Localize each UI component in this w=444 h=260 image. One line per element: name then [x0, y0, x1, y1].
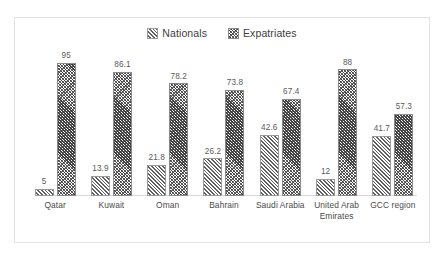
bar-slot-nationals: 41.7 [372, 52, 391, 196]
bar-expatriates [113, 72, 132, 196]
bar-slot-nationals: 42.6 [260, 52, 279, 196]
legend-entry-nationals: Nationals [147, 27, 207, 39]
bar-value-label: 41.7 [374, 125, 390, 133]
bar-value-label: 26.2 [205, 148, 221, 156]
bar-value-label: 95 [61, 52, 70, 60]
plot-area: 5 95 13.9 86.1 21.8 78. [27, 52, 421, 196]
bar-slot-expatriates: 67.4 [282, 52, 301, 196]
bar-value-label: 21.8 [149, 154, 165, 162]
bar-value-label: 73.8 [227, 79, 243, 87]
bar-value-label: 5 [42, 178, 47, 186]
bar-value-label: 88 [343, 59, 352, 67]
x-tick-label: GCC region [365, 200, 421, 211]
bar-group: 5 95 [27, 52, 83, 196]
bar-value-label: 13.9 [92, 165, 108, 173]
bar-group: 21.8 78.2 [140, 52, 196, 196]
legend-label-nationals: Nationals [162, 27, 207, 39]
bar-slot-nationals: 5 [35, 52, 54, 196]
legend-label-expatriates: Expatriates [243, 27, 297, 39]
bar-value-label: 57.3 [396, 103, 412, 111]
bar-slot-nationals: 26.2 [203, 52, 222, 196]
bar-value-label: 86.1 [114, 61, 130, 69]
bar-group: 12 88 [308, 52, 364, 196]
x-tick-label: Saudi Arabia [252, 200, 308, 211]
x-tick-label: Bahrain [196, 200, 252, 211]
bar-expatriates [57, 63, 76, 196]
bar-slot-expatriates: 73.8 [225, 52, 244, 196]
bar-slot-nationals: 21.8 [147, 52, 166, 196]
bar-expatriates [225, 90, 244, 196]
bar-expatriates [394, 114, 413, 197]
bar-nationals [203, 158, 222, 196]
x-tick-label: Oman [140, 200, 196, 211]
bar-group: 41.7 57.3 [365, 52, 421, 196]
bar-slot-expatriates: 78.2 [169, 52, 188, 196]
bar-value-label: 67.4 [283, 88, 299, 96]
x-tick-label: Kuwait [83, 200, 139, 211]
bar-expatriates [169, 83, 188, 196]
bar-slot-expatriates: 86.1 [113, 52, 132, 196]
bar-slot-expatriates: 88 [338, 52, 357, 196]
bar-value-label: 12 [321, 168, 330, 176]
bar-slot-nationals: 12 [316, 52, 335, 196]
bar-nationals [372, 136, 391, 196]
bar-group: 26.2 73.8 [196, 52, 252, 196]
bar-nationals [91, 176, 110, 196]
legend-swatch-expatriates-icon [228, 28, 239, 39]
x-tick-label: United Arab Emirates [308, 200, 364, 221]
bar-slot-expatriates: 95 [57, 52, 76, 196]
x-axis-labels: Qatar Kuwait Oman Bahrain Saudi Arabia U… [27, 196, 421, 236]
legend-swatch-nationals-icon [147, 28, 158, 39]
bar-nationals [35, 189, 54, 196]
legend-entry-expatriates: Expatriates [228, 27, 297, 39]
bar-value-label: 42.6 [261, 124, 277, 132]
bar-slot-nationals: 13.9 [91, 52, 110, 196]
bar-nationals [316, 179, 335, 196]
chart-legend: Nationals Expatriates [15, 27, 429, 39]
bar-expatriates [282, 99, 301, 196]
bar-nationals [260, 135, 279, 196]
bar-group: 13.9 86.1 [83, 52, 139, 196]
bar-slot-expatriates: 57.3 [394, 52, 413, 196]
bar-expatriates [338, 69, 357, 196]
bar-group: 42.6 67.4 [252, 52, 308, 196]
x-tick-label: Qatar [27, 200, 83, 211]
bar-chart-figure: Nationals Expatriates 5 95 13.9 86. [14, 17, 430, 243]
bar-value-label: 78.2 [171, 73, 187, 81]
bar-nationals [147, 165, 166, 196]
